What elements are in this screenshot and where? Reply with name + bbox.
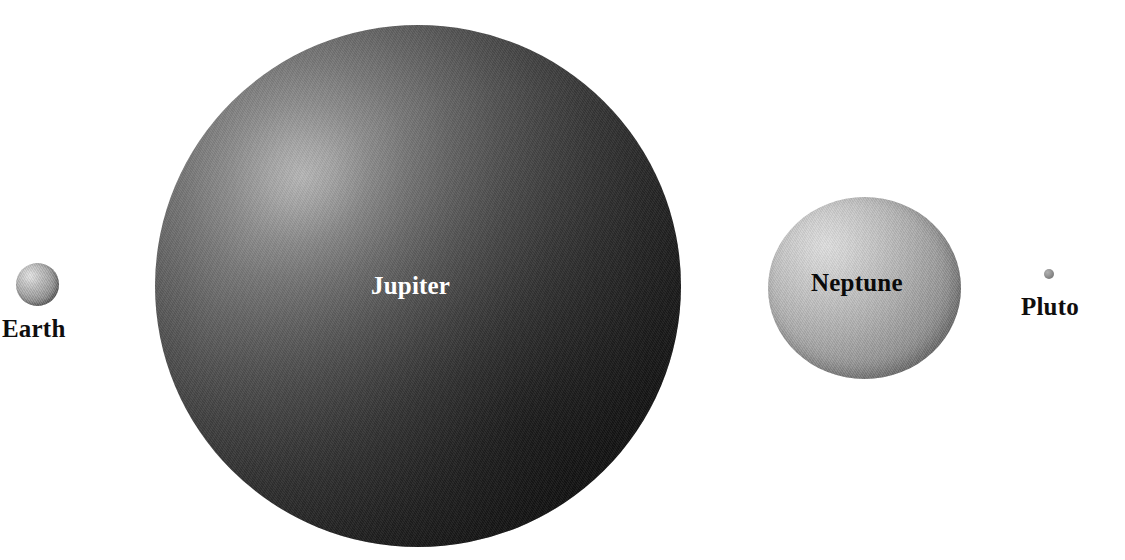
- planet-size-comparison-figure: Earth Jupiter Neptune Pluto: [0, 0, 1125, 560]
- jupiter-label: Jupiter: [371, 273, 450, 298]
- pluto-label: Pluto: [1021, 294, 1079, 319]
- earth-label: Earth: [2, 316, 66, 341]
- neptune-label: Neptune: [811, 270, 903, 295]
- pluto-sphere: [1044, 269, 1054, 279]
- earth-sphere: [16, 263, 59, 306]
